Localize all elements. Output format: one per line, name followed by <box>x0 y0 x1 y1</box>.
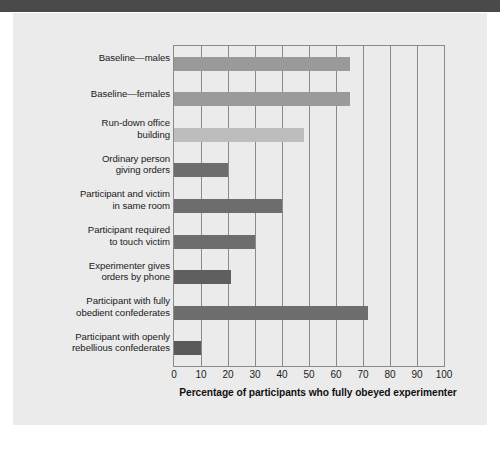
category-label-line: Participant with fully <box>13 295 170 307</box>
category-label: Experimenter givesorders by phone <box>13 260 170 283</box>
bar-chart-figure: Baseline—malesBaseline—femalesRun-down o… <box>13 13 487 425</box>
x-tick-label: 50 <box>294 369 324 380</box>
x-tick-label: 30 <box>240 369 270 380</box>
x-axis-tick-labels: 0102030405060708090100 <box>173 369 445 383</box>
category-label: Run-down officebuilding <box>13 117 170 140</box>
x-tick-label: 40 <box>267 369 297 380</box>
category-label-line: obedient confederates <box>13 307 170 319</box>
bar <box>174 92 350 106</box>
category-label: Participant with fullyobedient confedera… <box>13 295 170 318</box>
bar <box>174 128 304 142</box>
category-label-line: rebellious confederates <box>13 342 170 354</box>
category-label-line: Baseline—females <box>13 88 170 100</box>
category-axis-labels: Baseline—malesBaseline—femalesRun-down o… <box>13 40 170 360</box>
bar <box>174 57 350 71</box>
category-label-line: Participant with openly <box>13 331 170 343</box>
category-label-line: giving orders <box>13 164 170 176</box>
x-tick-label: 80 <box>375 369 405 380</box>
x-tick-label: 60 <box>321 369 351 380</box>
x-tick-label: 20 <box>213 369 243 380</box>
category-label-line: Experimenter gives <box>13 260 170 272</box>
category-label-line: orders by phone <box>13 271 170 283</box>
x-tick-label: 70 <box>348 369 378 380</box>
category-label-line: Participant and victim <box>13 188 170 200</box>
bar <box>174 163 228 177</box>
category-label-line: building <box>13 129 170 141</box>
category-label: Participant and victimin same room <box>13 188 170 211</box>
x-tick-label: 0 <box>159 369 189 380</box>
category-label: Participant with openlyrebellious confed… <box>13 331 170 354</box>
x-tick-label: 100 <box>429 369 459 380</box>
figure-panel: Baseline—malesBaseline—femalesRun-down o… <box>13 13 487 425</box>
x-axis-title: Percentage of participants who fully obe… <box>173 387 463 398</box>
bar <box>174 235 255 249</box>
category-label: Baseline—females <box>13 88 170 100</box>
category-label-line: in same room <box>13 200 170 212</box>
category-label-line: Ordinary person <box>13 153 170 165</box>
category-label-line: Participant required <box>13 224 170 236</box>
x-tick-label: 90 <box>402 369 432 380</box>
bar-series <box>174 46 444 366</box>
category-label-line: to touch victim <box>13 236 170 248</box>
category-label: Ordinary persongiving orders <box>13 153 170 176</box>
bar <box>174 199 282 213</box>
category-label-line: Baseline—males <box>13 52 170 64</box>
bar <box>174 306 368 320</box>
top-decorative-band <box>0 0 500 12</box>
bar <box>174 270 231 284</box>
category-label-line: Run-down office <box>13 117 170 129</box>
plot-area <box>173 45 445 367</box>
category-label: Baseline—males <box>13 52 170 64</box>
x-tick-label: 10 <box>186 369 216 380</box>
bar <box>174 341 201 355</box>
category-label: Participant requiredto touch victim <box>13 224 170 247</box>
